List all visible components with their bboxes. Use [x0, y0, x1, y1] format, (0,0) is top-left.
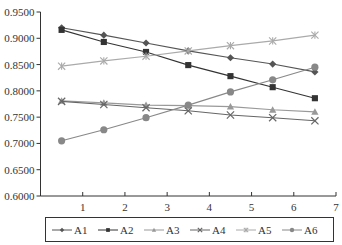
square-marker-icon [227, 73, 233, 79]
y-tick-label: 0.9500 [4, 6, 35, 18]
x-tick-label: 5 [249, 201, 255, 213]
x-axis: 1234567 [41, 192, 340, 213]
y-tick-label: 0.9000 [4, 32, 35, 44]
line-chart: 0.60000.65000.70000.75000.80000.85000.90… [0, 0, 342, 245]
x-tick-label: 6 [291, 201, 297, 213]
y-tick-label: 0.6000 [4, 190, 35, 202]
circle-marker-icon [58, 137, 65, 144]
square-shape [185, 62, 191, 68]
series-a2 [59, 27, 318, 101]
diamond-marker-icon [142, 39, 149, 46]
diamond-shape [142, 39, 149, 46]
square-marker-icon [106, 228, 110, 232]
square-shape [227, 73, 233, 79]
x-tick-label: 7 [333, 201, 339, 213]
square-marker-icon [312, 95, 318, 101]
diamond-shape [269, 60, 276, 67]
series-layer [58, 24, 318, 144]
y-tick-label: 0.7000 [4, 137, 35, 149]
x-tick-label: 1 [80, 201, 86, 213]
legend-label: A2 [120, 224, 133, 236]
y-tick-label: 0.6500 [4, 164, 35, 176]
circle-shape [269, 76, 276, 83]
diamond-marker-icon [100, 32, 107, 39]
legend-label: A6 [304, 224, 318, 236]
y-axis: 0.60000.65000.70000.75000.80000.85000.90… [4, 6, 40, 202]
y-tick-label: 0.8000 [4, 85, 35, 97]
square-shape [270, 84, 276, 90]
legend-label: A1 [74, 224, 87, 236]
circle-marker-icon [100, 126, 107, 133]
circle-marker-icon [185, 101, 192, 108]
x-tick-label: 2 [122, 201, 128, 213]
circle-marker-icon [311, 64, 318, 71]
circle-shape [311, 64, 318, 71]
square-shape [106, 228, 110, 232]
square-marker-icon [101, 39, 107, 45]
square-shape [59, 27, 65, 33]
circle-shape [290, 228, 294, 232]
legend-label: A5 [258, 224, 272, 236]
circle-marker-icon [290, 228, 294, 232]
circle-shape [227, 88, 234, 95]
diamond-shape [227, 54, 234, 61]
square-shape [101, 39, 107, 45]
legend-label: A3 [166, 224, 180, 236]
y-tick-label: 0.7500 [4, 111, 35, 123]
legend: A1A2A3A4A5A6 [46, 218, 334, 242]
square-marker-icon [270, 84, 276, 90]
diamond-shape [100, 32, 107, 39]
diamond-marker-icon [227, 54, 234, 61]
circle-shape [142, 114, 149, 121]
y-tick-label: 0.8500 [4, 59, 35, 71]
x-tick-label: 3 [164, 201, 170, 213]
legend-label: A4 [212, 224, 226, 236]
square-marker-icon [185, 62, 191, 68]
circle-marker-icon [142, 114, 149, 121]
circle-shape [58, 137, 65, 144]
square-marker-icon [59, 27, 65, 33]
circle-marker-icon [227, 88, 234, 95]
circle-shape [185, 101, 192, 108]
circle-marker-icon [269, 76, 276, 83]
square-shape [312, 95, 318, 101]
diamond-marker-icon [269, 60, 276, 67]
circle-shape [100, 126, 107, 133]
x-tick-label: 4 [207, 201, 213, 213]
